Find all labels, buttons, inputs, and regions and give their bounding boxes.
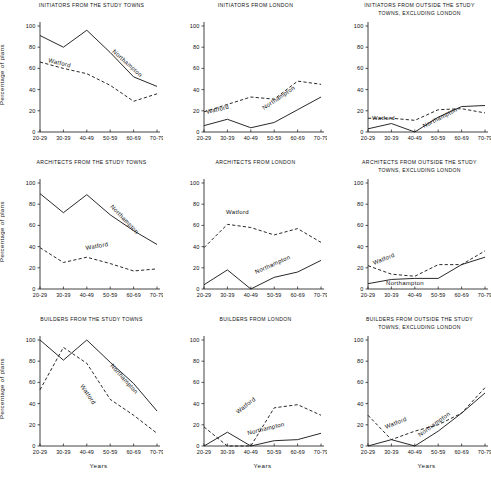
x-tick-label: 20-29 [361,449,375,455]
series-label-watford: Watford [206,104,230,115]
y-tick-label: 40 [193,244,200,250]
x-tick-label: 50-59 [103,449,117,455]
plot-area: 02040608010020-2930-3940-4950-5960-6970-… [328,314,491,480]
plot-area: 02040608010020-2930-3940-4950-5960-6970-… [328,157,491,317]
x-tick-label: 70-79 [314,449,327,455]
series-label-northampton: Northampton [261,85,296,111]
y-tick-label: 40 [357,401,364,407]
y-tick-label: 60 [193,379,200,385]
chart-panel: ARCHITECTS FROM OUTSIDE THE STUDY TOWNS,… [328,157,491,317]
x-tick-label: 50-59 [431,135,445,141]
series-line-watford [40,62,157,101]
x-tick-label: 20-29 [197,292,211,298]
x-tick-label: 70-79 [478,292,491,298]
plot-area: 02040608010020-2930-3940-4950-5960-6970-… [164,314,327,480]
axis-lines [40,22,160,132]
series-label-northampton: Northampton [422,106,459,129]
x-tick-label: 60-69 [126,292,140,298]
x-tick-label: 40-49 [80,292,94,298]
x-tick-label: 70-79 [314,135,327,141]
x-tick-label: 50-59 [267,292,281,298]
series-line-watford [40,248,157,271]
series-label-northampton: Northampton [254,254,291,275]
chart-panel: BUILDERS FROM OUTSIDE THE STUDY TOWNS, E… [328,314,491,480]
y-tick-label: 80 [193,201,200,207]
y-tick-label: 80 [357,358,364,364]
x-tick-label: 60-69 [454,449,468,455]
series-line-northampton [40,340,157,411]
x-tick-label: 70-79 [150,449,163,455]
series-line-northampton [204,432,321,446]
series-line-northampton [368,393,485,446]
series-label-northampton: Northampton [247,421,285,436]
y-tick-label: 100 [190,23,200,29]
x-tick-label: 70-79 [314,292,327,298]
y-tick-label: 20 [29,108,36,114]
axis-lines [204,22,324,132]
x-tick-label: 50-59 [431,292,445,298]
y-tick-label: 100 [354,23,364,29]
y-tick-label: 40 [29,244,36,250]
series-label-northampton: Northampton [111,48,143,78]
x-tick-label: 60-69 [126,449,140,455]
x-tick-label: 30-39 [56,292,70,298]
y-tick-label: 100 [190,180,200,186]
series-label-northampton: Northampton [109,363,139,395]
plot-area: 02040608010020-2930-3940-4950-5960-6970-… [0,314,163,480]
chart-panel: BUILDERS FROM THE STUDY TOWNSPercentage … [0,314,163,480]
y-tick-label: 80 [193,44,200,50]
x-tick-label: 30-39 [384,449,398,455]
series-label-northampton: Northampton [109,204,140,236]
chart-panel: INITIATORS FROM OUTSIDE THE STUDY TOWNS,… [328,0,491,160]
y-tick-label: 80 [29,44,36,50]
chart-panel: INITIATORS FROM THE STUDY TOWNSPercentag… [0,0,163,160]
x-tick-label: 20-29 [33,135,47,141]
y-tick-label: 80 [29,358,36,364]
x-tick-label: 40-49 [244,449,258,455]
series-label-watford: Watford [85,241,109,251]
y-tick-label: 60 [193,222,200,228]
x-tick-label: 20-29 [361,135,375,141]
y-tick-label: 60 [29,65,36,71]
y-tick-label: 80 [29,201,36,207]
series-label-watford: Watford [372,252,395,266]
figure-grid: INITIATORS FROM THE STUDY TOWNSPercentag… [0,0,491,480]
x-tick-label: 20-29 [361,292,375,298]
series-label-watford: Watford [48,57,72,68]
plot-area: 02040608010020-2930-3940-4950-5960-6970-… [328,0,491,160]
x-tick-label: 60-69 [290,135,304,141]
y-tick-label: 20 [357,422,364,428]
y-tick-label: 20 [357,108,364,114]
x-tick-label: 40-49 [244,292,258,298]
y-tick-label: 20 [193,108,200,114]
x-tick-label: 50-59 [431,449,445,455]
plot-area: 02040608010020-2930-3940-4950-5960-6970-… [164,0,327,160]
x-tick-label: 30-39 [384,292,398,298]
y-tick-label: 100 [26,180,36,186]
y-tick-label: 100 [26,337,36,343]
x-tick-label: 30-39 [220,449,234,455]
x-tick-label: 20-29 [197,449,211,455]
x-tick-label: 70-79 [478,449,491,455]
axis-lines [40,179,160,289]
y-tick-label: 20 [29,265,36,271]
plot-area: 02040608010020-2930-3940-4950-5960-6970-… [164,157,327,317]
x-tick-label: 40-49 [408,135,422,141]
x-tick-label: 20-29 [33,292,47,298]
x-tick-label: 50-59 [267,135,281,141]
x-axis-label: Years [417,462,435,469]
y-tick-label: 40 [193,401,200,407]
x-tick-label: 40-49 [408,449,422,455]
chart-panel: ARCHITECTS FROM LONDON02040608010020-293… [164,157,327,317]
x-tick-label: 30-39 [384,135,398,141]
x-tick-label: 70-79 [478,135,491,141]
x-tick-label: 70-79 [150,292,163,298]
y-tick-label: 20 [193,422,200,428]
x-tick-label: 60-69 [454,135,468,141]
x-tick-label: 60-69 [454,292,468,298]
x-tick-label: 50-59 [103,135,117,141]
series-label-northampton: Northampton [386,280,424,286]
y-tick-label: 60 [29,222,36,228]
series-line-northampton [204,97,321,128]
chart-panel: BUILDERS FROM LONDON02040608010020-2930-… [164,314,327,480]
